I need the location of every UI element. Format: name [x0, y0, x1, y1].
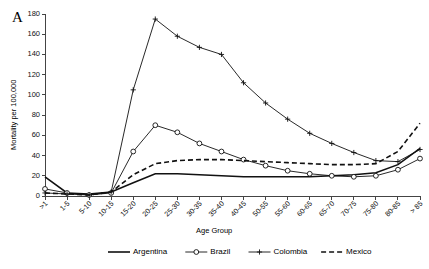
data-point — [351, 150, 356, 155]
x-axis: >11-55-1010-1515-2020-2525-3030-3535-404… — [37, 196, 424, 218]
y-axis: 020406080100120140160180 — [27, 9, 45, 200]
legend-label: Colombia — [274, 247, 308, 256]
data-point — [131, 87, 136, 92]
data-point — [373, 173, 378, 178]
data-point — [197, 141, 202, 146]
data-point — [373, 158, 378, 163]
data-point — [418, 156, 423, 161]
legend-marker — [194, 250, 199, 255]
x-tick-label: 70-75 — [339, 199, 358, 218]
data-point — [197, 45, 202, 50]
series-colombia — [42, 16, 422, 197]
x-tick-label: 60-65 — [295, 199, 314, 218]
data-point — [351, 174, 356, 179]
data-point — [219, 149, 224, 154]
x-tick-label: >1 — [37, 199, 49, 211]
x-tick-label: 50-55 — [251, 199, 270, 218]
legend-item-mexico: Mexico — [321, 247, 372, 256]
x-tick-label: 15-20 — [118, 199, 137, 218]
x-tick-label: 80-85 — [383, 199, 402, 218]
data-point — [396, 167, 401, 172]
y-tick-label: 40 — [32, 151, 40, 160]
x-tick-label: 75-80 — [361, 199, 380, 218]
x-tick-label: 25-30 — [162, 199, 181, 218]
legend-label: Argentina — [133, 247, 168, 256]
data-point — [329, 173, 334, 178]
legend-item-argentina: Argentina — [108, 247, 168, 256]
x-tick-label: 5-10 — [77, 199, 94, 216]
x-tick-label: > 85 — [408, 199, 424, 215]
x-axis-title: Age Group — [196, 226, 232, 235]
data-point — [175, 130, 180, 135]
data-point — [131, 149, 136, 154]
y-tick-label: 0 — [36, 191, 40, 200]
series-mexico — [45, 123, 420, 195]
panel-label: A — [12, 9, 23, 25]
y-tick-label: 100 — [27, 90, 40, 99]
chart-legend: ArgentinaBrazilColombiaMexico — [108, 247, 372, 256]
x-tick-label: 20-25 — [140, 199, 159, 218]
legend-item-brazil: Brazil — [185, 247, 230, 256]
y-tick-label: 80 — [32, 110, 40, 119]
data-point — [153, 123, 158, 128]
legend-marker — [257, 249, 262, 254]
x-tick-label: 1-5 — [58, 199, 72, 213]
y-tick-label: 120 — [27, 70, 40, 79]
x-tick-label: 35-40 — [207, 199, 226, 218]
y-tick-label: 60 — [32, 130, 40, 139]
data-point — [285, 168, 290, 173]
x-tick-label: 10-15 — [96, 199, 115, 218]
data-point — [417, 147, 422, 152]
y-tick-label: 140 — [27, 49, 40, 58]
chart-container: A Mortality per 100,000 Age Group 020406… — [0, 0, 429, 269]
legend-label: Brazil — [210, 247, 230, 256]
series-line-colombia — [45, 19, 420, 195]
data-point — [263, 163, 268, 168]
legend-label: Mexico — [346, 247, 372, 256]
data-series-group — [42, 16, 422, 197]
x-tick-label: 30-35 — [184, 199, 203, 218]
legend-item-colombia: Colombia — [249, 247, 308, 256]
y-tick-label: 180 — [27, 9, 40, 18]
data-point — [307, 131, 312, 136]
y-axis-title: Mortality per 100,000 — [9, 80, 18, 150]
x-tick-label: 65-70 — [317, 199, 336, 218]
x-tick-label: 40-45 — [229, 199, 248, 218]
y-tick-label: 20 — [32, 171, 40, 180]
series-line-mexico — [45, 123, 420, 195]
x-tick-label: 55-60 — [273, 199, 292, 218]
line-chart: A Mortality per 100,000 Age Group 020406… — [0, 0, 429, 269]
y-tick-label: 160 — [27, 29, 40, 38]
data-point — [307, 171, 312, 176]
data-point — [329, 141, 334, 146]
